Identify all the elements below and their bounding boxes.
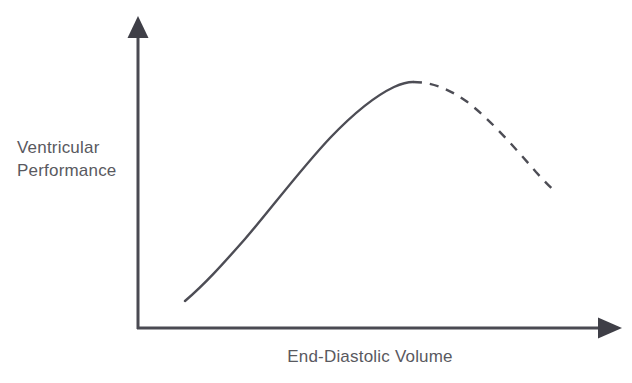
curve-solid-ascending <box>185 82 413 301</box>
y-axis-label: Ventricular Performance <box>17 136 117 182</box>
chart-figure: Ventricular Performance End-Diastolic Vo… <box>0 0 632 383</box>
chart-plot-area <box>0 0 632 383</box>
curve-dashed-descending <box>413 82 557 193</box>
y-axis-label-line1: Ventricular <box>17 136 117 159</box>
y-axis-arrow-icon <box>128 16 149 38</box>
x-axis-arrow-icon <box>598 318 622 339</box>
y-axis-label-line2: Performance <box>17 159 117 182</box>
x-axis-label: End-Diastolic Volume <box>0 345 632 368</box>
